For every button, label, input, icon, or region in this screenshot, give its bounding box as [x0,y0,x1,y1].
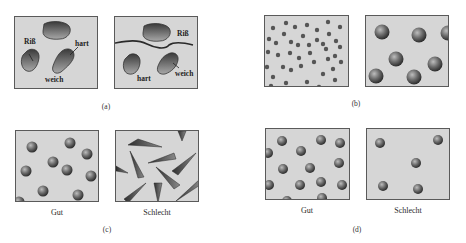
spherical-particles-good [16,131,99,202]
panel-b-left [264,15,349,87]
panel-c-right [115,130,199,202]
dense-particles-good [266,129,350,200]
crack-propagation-diagram [115,17,198,89]
panel-c-left [15,130,99,202]
caption-bad: Schlecht [368,206,448,215]
label-crack: Riß [177,29,189,38]
label-soft: weich [175,69,193,78]
panel-label-b: (b) [341,99,371,108]
caption-bad: Schlecht [117,208,197,217]
label-hard: hart [75,39,89,48]
label-hard: hart [137,74,151,83]
label-crack: Riß [24,37,36,46]
few-large-particles [366,16,449,87]
sparse-particles-bad [367,129,450,200]
needle-particles-bad [116,131,199,202]
panel-a-left: Riß hart weich [14,16,98,89]
panel-a-right: Riß hart weich [114,16,198,89]
label-soft: weich [45,75,63,84]
panel-label-a: (a) [91,102,121,111]
panel-d-left [265,128,350,200]
caption-good: Gut [267,206,347,215]
panel-label-c: (c) [92,225,122,234]
panel-d-right [366,128,450,200]
many-small-particles [265,16,349,87]
caption-good: Gut [17,208,97,217]
panel-b-right [365,15,449,87]
panel-label-d: (d) [342,225,372,234]
